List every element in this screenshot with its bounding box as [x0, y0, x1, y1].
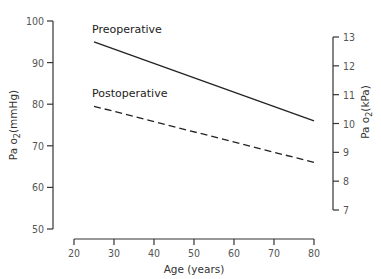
x-tick-label: 70: [268, 247, 280, 259]
ylabel-unit: (mmHg): [7, 90, 19, 133]
right-tick-label: 7: [343, 204, 349, 216]
left-y-axis: 5060708090100: [26, 15, 53, 235]
ylabel-right-unit: (kPa): [359, 85, 371, 112]
series-line-postoperative: [94, 106, 314, 162]
right-tick-label: 12: [343, 60, 355, 72]
x-tick-label: 20: [68, 247, 80, 259]
left-tick-label: 100: [26, 15, 44, 27]
x-tick-label: 50: [188, 247, 200, 259]
x-tick-label: 40: [148, 247, 160, 259]
left-tick-label: 50: [32, 223, 44, 235]
left-y-axis-title: Pa o2(mmHg): [7, 90, 22, 160]
left-tick-label: 80: [32, 98, 44, 110]
series-line-preoperative: [94, 42, 314, 121]
right-y-axis-title: Pa o2(kPa): [359, 85, 374, 139]
x-tick-label: 60: [228, 247, 240, 259]
right-y-axis: 78910111213: [333, 31, 355, 216]
x-tick-label: 30: [108, 247, 120, 259]
left-tick-label: 70: [32, 140, 44, 152]
ylabel-right-pa: Pa o: [359, 117, 371, 139]
series-label-postoperative: Postoperative: [92, 87, 168, 100]
left-tick-label: 90: [32, 57, 44, 69]
right-tick-label: 13: [343, 31, 355, 43]
series-label-preoperative: Preoperative: [92, 23, 162, 36]
x-tick-label: 80: [308, 247, 320, 259]
ylabel-pa: Pa o: [7, 138, 19, 160]
x-axis: 20304050607080: [68, 239, 320, 259]
chart: 5060708090100 78910111213 20304050607080…: [0, 0, 381, 279]
right-tick-label: 8: [343, 175, 349, 187]
left-tick-label: 60: [32, 181, 44, 193]
chart-canvas: 5060708090100 78910111213 20304050607080…: [0, 0, 381, 279]
right-tick-label: 10: [343, 118, 355, 130]
series-lines: PreoperativePostoperative: [92, 23, 314, 163]
right-tick-label: 9: [343, 146, 349, 158]
x-axis-title: Age (years): [164, 263, 225, 275]
right-tick-label: 11: [343, 89, 355, 101]
